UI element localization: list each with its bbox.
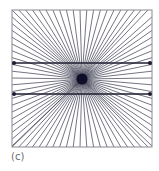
caption-label: (c) — [11, 151, 24, 162]
line-endpoint-dot — [12, 92, 16, 96]
ray-line — [60, 79, 82, 147]
ray-line — [82, 79, 152, 139]
ray-line — [82, 37, 152, 79]
hering-illusion-figure — [0, 0, 159, 171]
center-dot — [77, 74, 88, 85]
line-endpoint-dot — [12, 61, 16, 65]
ray-line — [82, 24, 152, 79]
ray-line — [12, 79, 82, 139]
line-endpoint-dot — [148, 92, 152, 96]
figure-caption: (c) — [11, 151, 24, 162]
ray-line — [19, 10, 82, 79]
ray-line — [19, 79, 82, 147]
line-endpoint-dot — [148, 61, 152, 65]
ray-line — [12, 79, 82, 126]
ray-line — [12, 37, 82, 79]
ray-line — [82, 79, 128, 147]
ray-line — [12, 17, 82, 79]
